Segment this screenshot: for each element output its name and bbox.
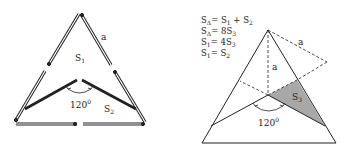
- left-side-label: a: [101, 32, 107, 42]
- angle-arc-right: [255, 106, 283, 111]
- formula-2: SΔ= 8S3: [201, 26, 236, 37]
- formula-3: S1= 4S3: [201, 37, 236, 48]
- match-bottom-left: [16, 122, 77, 125]
- dashed-corner-to-edge: [297, 62, 327, 80]
- match-right-lower: [113, 70, 145, 122]
- formula-4: S1= S2: [201, 48, 230, 59]
- right-side-label: a: [298, 37, 304, 47]
- left-region-s1: S1: [75, 53, 85, 64]
- match-bottom-right: [83, 122, 145, 125]
- dashed-center-to-left: [240, 81, 268, 95]
- left-region-s2: S2: [104, 104, 114, 115]
- formula-block: SΔ= S1 + S2 SΔ= 8S3 S1= 4S3 S1= S2: [201, 15, 253, 59]
- right-angle-label: 1200: [258, 116, 279, 128]
- diagram-canvas: a S1 S2 1200 a a S3 1200 SΔ= S1 + S2 SΔ=…: [0, 0, 352, 152]
- left-angle-label: 1200: [70, 98, 91, 110]
- formula-1: SΔ= S1 + S2: [201, 15, 253, 26]
- match-left-lower: [14, 71, 45, 122]
- right-height-label: a: [272, 62, 278, 72]
- angle-arc-left: [68, 89, 91, 93]
